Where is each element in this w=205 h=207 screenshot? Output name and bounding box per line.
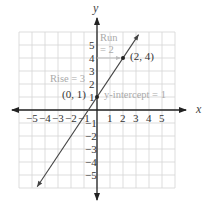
run-label-line2: = 2 xyxy=(100,44,114,55)
y-tick-label: 3 xyxy=(89,65,95,77)
x-tick-label: −5 xyxy=(26,112,38,124)
x-axis-arrow-right-icon xyxy=(179,107,187,113)
data-point xyxy=(121,56,125,60)
y-axis-arrow-up-icon xyxy=(94,17,100,25)
y-intercept-label: y-intercept = 1 xyxy=(104,89,166,100)
y-tick-label: −1 xyxy=(85,117,97,129)
line-arrowhead-icon xyxy=(37,181,42,187)
y-tick-label: −4 xyxy=(85,156,97,168)
y-tick-label: 5 xyxy=(89,39,95,51)
y-tick-label: −3 xyxy=(85,143,97,155)
y-axis-arrow-down-icon xyxy=(94,193,100,201)
x-tick-label: 2 xyxy=(120,112,126,124)
y-tick-label: 2 xyxy=(89,78,95,90)
x-tick-label: 1 xyxy=(107,112,113,124)
coordinate-plane: −5−4−3−2−11234554321−1−2−3−4−5 y x Run =… xyxy=(0,0,205,207)
point-label-0-1: (0, 1) xyxy=(62,88,86,101)
point-label-2-4: (2, 4) xyxy=(130,50,154,63)
x-tick-label: −2 xyxy=(65,112,77,124)
run-label-line1: Run xyxy=(100,32,118,43)
rise-label: Rise = 3 xyxy=(50,73,85,84)
y-tick-label: −5 xyxy=(85,169,97,181)
run-arrowhead-icon xyxy=(116,56,121,60)
x-axis-label: x xyxy=(195,102,202,116)
x-tick-label: 4 xyxy=(146,112,152,124)
y-axis-label: y xyxy=(92,1,99,15)
y-tick-label: 4 xyxy=(89,52,95,64)
x-axis-arrow-left-icon xyxy=(11,107,19,113)
x-tick-label: −4 xyxy=(39,112,51,124)
x-tick-label: 5 xyxy=(159,112,165,124)
rise-run-guides xyxy=(97,56,121,60)
data-point xyxy=(95,95,99,99)
x-tick-label: 3 xyxy=(133,112,139,124)
y-tick-label: −2 xyxy=(85,130,97,142)
x-tick-label: −3 xyxy=(52,112,64,124)
